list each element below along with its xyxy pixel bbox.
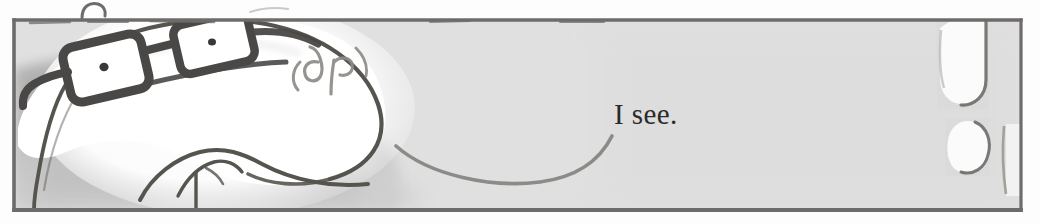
upper-finger-shape [940,20,986,104]
right-pupil [208,38,216,45]
left-pupil [99,63,108,71]
comic-strip: I see. [0,0,1040,224]
panel-artwork [0,0,1040,224]
